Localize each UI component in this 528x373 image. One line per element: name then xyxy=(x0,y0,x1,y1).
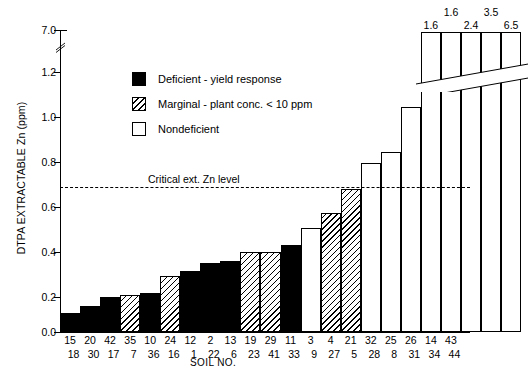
soil-no-top-19: 19 xyxy=(240,334,260,347)
critical-zn-level-label: Critical ext. Zn level xyxy=(148,173,240,185)
legend-label-deficient: Deficient - yield response xyxy=(158,73,282,85)
bar-35-7 xyxy=(120,295,140,332)
x-label-col-13: 427 xyxy=(321,334,341,360)
soil-no-top-10: 10 xyxy=(140,334,160,347)
bar-overflow-1 xyxy=(481,66,501,332)
soil-no-top-43: 43 xyxy=(441,334,461,347)
bar-2-22 xyxy=(200,263,220,332)
soil-no-top-14: 14 xyxy=(421,334,441,347)
critical-zn-level-line xyxy=(60,187,470,188)
bar-21-5 xyxy=(341,189,361,332)
x-label-col-18: 1434 xyxy=(421,334,441,360)
x-label-col-11: 1133 xyxy=(281,334,301,360)
bar-20-30 xyxy=(80,306,100,332)
legend-item-nondeficient: Nondeficient xyxy=(132,116,312,141)
soil-no-top-35: 35 xyxy=(120,334,140,347)
x-label-col-1: 2030 xyxy=(80,334,100,360)
soil-no-top-15: 15 xyxy=(60,334,80,347)
legend-swatch-nondeficient-icon xyxy=(132,122,146,136)
bar-3-9 xyxy=(301,228,321,332)
soil-no-top-4: 4 xyxy=(321,334,341,347)
x-tick-labels: 1518203042173571036241612122213619232941… xyxy=(60,334,470,368)
bar-11-33 xyxy=(281,245,301,332)
y-tick-label-0.2: 0.2 xyxy=(16,292,56,302)
soil-no-top-11: 11 xyxy=(281,334,301,347)
soil-no-bottom-34: 34 xyxy=(428,348,441,361)
soil-no-bottom-17: 17 xyxy=(107,348,120,361)
x-axis-title: SOIL NO. xyxy=(190,357,236,368)
legend-item-marginal: Marginal - plant conc. < 10 ppm xyxy=(132,91,312,116)
bar-14-34 xyxy=(421,66,441,332)
y-tick-label-1.2: 1.2 xyxy=(16,67,56,77)
legend-label-marginal: Marginal - plant conc. < 10 ppm xyxy=(158,98,312,110)
overflow-value-label-upper-0: 1.6 xyxy=(438,6,464,18)
soil-no-bottom-18: 18 xyxy=(67,348,80,361)
bar-32-28 xyxy=(361,163,381,332)
soil-no-top-12: 12 xyxy=(180,334,200,347)
soil-no-bottom-30: 30 xyxy=(87,348,100,361)
soil-no-bottom-41: 41 xyxy=(267,348,280,361)
soil-no-bottom-7: 7 xyxy=(127,348,140,361)
bar-43-44 xyxy=(441,66,461,332)
soil-no-bottom-28: 28 xyxy=(368,348,381,361)
soil-no-bottom-44: 44 xyxy=(448,348,461,361)
overflow-value-label-lower-2: 6.5 xyxy=(498,19,524,31)
x-label-col-15: 3228 xyxy=(361,334,381,360)
bar-19-23 xyxy=(240,252,260,332)
legend-item-deficient: Deficient - yield response xyxy=(132,66,312,91)
x-label-col-12: 39 xyxy=(301,334,321,360)
soil-no-bottom-16: 16 xyxy=(167,348,180,361)
soil-no-top-21: 21 xyxy=(341,334,361,347)
soil-no-top-26: 26 xyxy=(401,334,421,347)
x-label-col-17: 2631 xyxy=(401,334,421,360)
soil-no-top-32: 32 xyxy=(361,334,381,347)
y-tick-label-7.0: 7.0 xyxy=(16,25,56,35)
bar-15-18 xyxy=(60,313,80,333)
y-axis-title: DTPA EXTRACTABLE Zn (ppm) xyxy=(15,78,27,278)
legend-label-nondeficient: Nondeficient xyxy=(158,123,219,135)
soil-no-bottom-36: 36 xyxy=(147,348,160,361)
soil-no-bottom-8: 8 xyxy=(388,348,401,361)
x-axis-line xyxy=(60,332,470,333)
soil-no-bottom-33: 33 xyxy=(288,348,301,361)
chart-legend: Deficient - yield response Marginal - pl… xyxy=(132,66,312,141)
bar-26-31 xyxy=(401,107,421,332)
bar-42-17 xyxy=(100,297,120,332)
soil-no-top-3: 3 xyxy=(301,334,321,347)
x-label-col-0: 1518 xyxy=(60,334,80,360)
x-label-col-10: 2941 xyxy=(260,334,280,360)
bar-overflow-2 xyxy=(501,66,521,332)
soil-no-top-20: 20 xyxy=(80,334,100,347)
soil-no-top-42: 42 xyxy=(100,334,120,347)
soil-no-bottom-5: 5 xyxy=(348,348,361,361)
x-label-col-2: 4217 xyxy=(100,334,120,360)
x-label-col-3: 357 xyxy=(120,334,140,360)
bar-25-8 xyxy=(381,152,401,332)
legend-swatch-deficient-icon xyxy=(132,72,146,86)
y-tick-label-0.0: 0.0 xyxy=(16,327,56,337)
bar-29-41 xyxy=(260,252,280,332)
overflow-value-label-upper-1: 3.5 xyxy=(478,6,504,18)
x-label-col-5: 2416 xyxy=(160,334,180,360)
bar-13-6 xyxy=(220,261,240,333)
x-label-col-16: 258 xyxy=(381,334,401,360)
soil-no-bottom-9: 9 xyxy=(308,348,321,361)
soil-no-bottom-27: 27 xyxy=(328,348,341,361)
soil-no-bottom-23: 23 xyxy=(247,348,260,361)
x-label-col-4: 1036 xyxy=(140,334,160,360)
bar-4-27 xyxy=(321,213,341,332)
soil-no-top-2: 2 xyxy=(200,334,220,347)
soil-no-top-13: 13 xyxy=(220,334,240,347)
x-label-col-19: 4344 xyxy=(441,334,461,360)
x-label-col-14: 215 xyxy=(341,334,361,360)
bar-12-1 xyxy=(180,271,200,332)
soil-no-bottom-31: 31 xyxy=(408,348,421,361)
soil-no-top-24: 24 xyxy=(160,334,180,347)
legend-swatch-marginal-icon xyxy=(132,97,146,111)
bar-overflow-0 xyxy=(461,66,481,332)
x-label-col-9: 1923 xyxy=(240,334,260,360)
bar-24-16 xyxy=(160,276,180,332)
bar-10-36 xyxy=(140,293,160,332)
soil-no-top-29: 29 xyxy=(260,334,280,347)
